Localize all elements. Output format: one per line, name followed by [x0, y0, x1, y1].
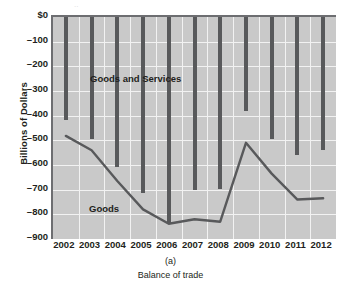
chart-figure: .. Billions of Dollars $0–100–200–300–40… [0, 0, 341, 285]
x-axis-tick-labels: 2002200320042005200620072008200920102011… [51, 240, 334, 254]
y-tick-label: –500 [14, 133, 48, 143]
y-tick-label: $0 [14, 10, 48, 20]
y-tick-label: –700 [14, 183, 48, 193]
y-tick-label: –300 [14, 84, 48, 94]
series-label-goods: Goods [89, 203, 119, 214]
y-tick-label: –600 [14, 158, 48, 168]
plot-area: Goods and Services Goods [51, 15, 336, 239]
panel-identifier: (a) [0, 256, 341, 266]
figure-caption: Balance of trade [0, 270, 341, 280]
y-tick-label: –100 [14, 35, 48, 45]
y-tick-label: –200 [14, 59, 48, 69]
cropped-text-remnant: .. [74, 0, 78, 9]
y-axis-tick-labels: $0–100–200–300–400–500–600–700–800–900 [0, 0, 48, 285]
plot-clip: Goods and Services Goods [53, 17, 336, 239]
y-tick-label: –400 [14, 109, 48, 119]
y-tick-label: –800 [14, 207, 48, 217]
y-tick-label: –900 [14, 232, 48, 242]
x-tick-label: 2012 [306, 240, 336, 250]
series-label-goods-and-services: Goods and Services [90, 73, 181, 84]
